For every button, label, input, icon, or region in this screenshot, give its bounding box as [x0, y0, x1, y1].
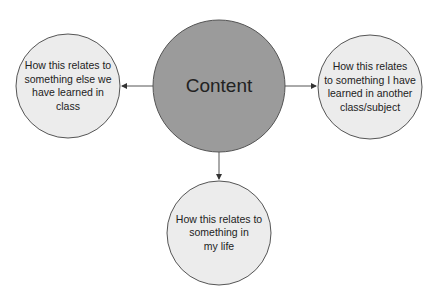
left-node-line: How this relates to — [25, 59, 111, 73]
bottom-node-line: How this relates to — [176, 213, 262, 227]
left-node-line: have learned in — [32, 86, 104, 100]
right-node-line: How this relates — [333, 60, 408, 74]
bottom-node-line: something in — [189, 226, 249, 240]
right-node-label: How this relates to something I have lea… — [318, 59, 422, 115]
right-node-line: class/subject — [340, 101, 400, 115]
left-node-line: something else we — [25, 73, 112, 87]
left-node-label: How this relates to something else we ha… — [18, 58, 118, 114]
center-node-label: Content — [153, 70, 285, 102]
bottom-node-label: How this relates to something in my life — [169, 212, 269, 254]
left-node-line: class — [56, 100, 80, 114]
right-node-line: to something I have — [324, 74, 416, 88]
bottom-node-line: my life — [204, 240, 234, 254]
right-node-line: learned in another — [328, 87, 413, 101]
